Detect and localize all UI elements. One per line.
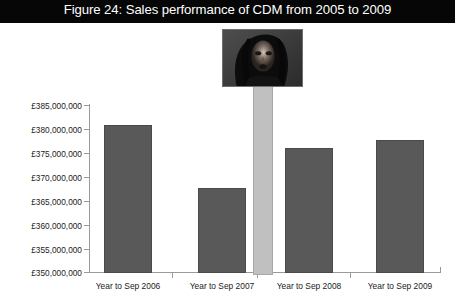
x-axis-category-label: Year to Sep 2007 xyxy=(182,281,262,291)
overlay-annotation-column xyxy=(253,86,273,275)
chart-figure: Figure 24: Sales performance of CDM from… xyxy=(0,0,455,301)
y-tick-mark xyxy=(84,272,90,273)
x-axis-separator-tick xyxy=(350,272,351,278)
x-axis-separator-tick xyxy=(172,272,173,278)
x-axis-end-cap xyxy=(440,267,441,273)
x-axis-category-label: Year to Sep 2009 xyxy=(360,281,440,291)
bar-year-to-sep-2009 xyxy=(376,140,424,273)
y-axis-label: £355,000,000 xyxy=(8,245,82,255)
bar-year-to-sep-2006 xyxy=(104,125,152,273)
y-tick-mark xyxy=(84,153,90,154)
y-tick-mark xyxy=(84,129,90,130)
bar-year-to-sep-2008 xyxy=(285,148,333,273)
y-tick-mark xyxy=(84,249,90,250)
overlay-portrait-photo xyxy=(222,29,303,87)
y-axis-label: £350,000,000 xyxy=(8,268,82,278)
y-tick-mark xyxy=(84,201,90,202)
bar-year-to-sep-2007 xyxy=(198,188,246,273)
y-axis-label: £365,000,000 xyxy=(8,197,82,207)
y-axis-label: £360,000,000 xyxy=(8,221,82,231)
plot-area: £385,000,000 £380,000,000 £375,000,000 £… xyxy=(0,0,455,301)
x-axis-category-label: Year to Sep 2006 xyxy=(88,281,168,291)
y-axis-label: £385,000,000 xyxy=(8,101,82,111)
y-axis-label: £375,000,000 xyxy=(8,149,82,159)
y-tick-mark xyxy=(84,177,90,178)
x-axis-category-label: Year to Sep 2008 xyxy=(269,281,349,291)
y-axis-label: £370,000,000 xyxy=(8,173,82,183)
y-axis-label: £380,000,000 xyxy=(8,125,82,135)
y-tick-mark xyxy=(84,105,90,106)
y-tick-mark xyxy=(84,225,90,226)
